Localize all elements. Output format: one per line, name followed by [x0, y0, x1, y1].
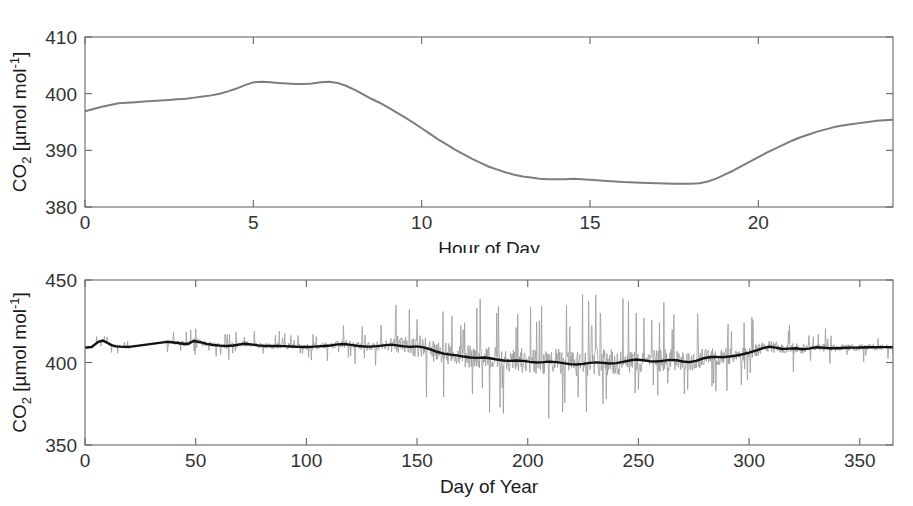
y-tick-label: 350 — [45, 435, 77, 456]
y-axis-title-close: ] — [9, 52, 30, 57]
y-axis-title-base: CO — [9, 164, 30, 193]
y-axis-title: CO2 [µmol mol-1] — [7, 52, 34, 193]
data-layer — [85, 82, 893, 184]
x-tick-label: 350 — [844, 450, 876, 471]
x-axis-title: Hour of Day — [438, 238, 540, 253]
annual-panel: 050100150200250300350350400450Day of Yea… — [0, 253, 913, 506]
y-tick-label: 400 — [45, 353, 77, 374]
y-axis-title-unit: [µmol mol — [9, 69, 30, 157]
x-tick-label: 150 — [401, 450, 433, 471]
y-tick-label: 410 — [45, 27, 77, 48]
y-axis-title-subscript: 2 — [19, 397, 34, 404]
y-tick-label: 390 — [45, 140, 77, 161]
y-axis-title-superscript: -1 — [7, 57, 22, 69]
y-tick-label: 380 — [45, 197, 77, 218]
x-tick-label: 20 — [748, 212, 769, 233]
data-layer — [85, 295, 893, 419]
x-tick-label: 100 — [291, 450, 323, 471]
y-axis-title: CO2 [µmol mol-1] — [7, 292, 34, 433]
series-raw-co2 — [85, 295, 893, 419]
x-tick-label: 15 — [579, 212, 600, 233]
axis-frame — [85, 37, 893, 207]
x-tick-label: 300 — [733, 450, 765, 471]
x-tick-label: 250 — [623, 450, 655, 471]
x-tick-label: 50 — [185, 450, 206, 471]
y-axis-title-subscript: 2 — [19, 157, 34, 164]
diurnal-panel: 05101520380390400410Hour of DayCO2 [µmol… — [0, 0, 913, 253]
y-tick-label: 450 — [45, 270, 77, 291]
x-tick-label: 0 — [80, 450, 91, 471]
x-tick-label: 0 — [80, 212, 91, 233]
x-tick-label: 5 — [248, 212, 259, 233]
diurnal-chart: 05101520380390400410Hour of DayCO2 [µmol… — [0, 0, 913, 253]
y-axis-title-close: ] — [9, 292, 30, 297]
series-mean-diurnal-co2 — [85, 82, 893, 184]
x-axis-title: Day of Year — [440, 476, 539, 497]
y-axis-title-base: CO — [9, 404, 30, 433]
x-tick-label: 10 — [411, 212, 432, 233]
x-tick-label: 200 — [512, 450, 544, 471]
y-axis-title-unit: [µmol mol — [9, 309, 30, 397]
annual-chart: 050100150200250300350350400450Day of Yea… — [0, 253, 913, 506]
y-axis-title-superscript: -1 — [7, 297, 22, 309]
y-tick-label: 400 — [45, 84, 77, 105]
co2-figure: 05101520380390400410Hour of DayCO2 [µmol… — [0, 0, 913, 506]
